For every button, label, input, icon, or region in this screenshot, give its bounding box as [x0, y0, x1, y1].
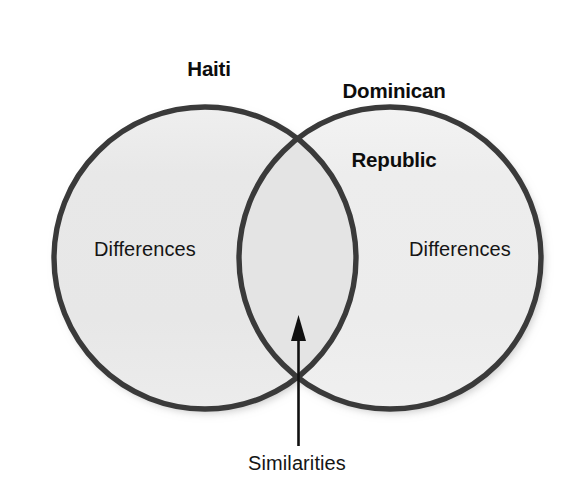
- region-label-dominican-republic-differences: Differences: [360, 238, 560, 260]
- set-title-dominican-republic: Dominican Republic: [294, 34, 494, 218]
- region-label-similarities: Similarities: [197, 452, 397, 474]
- venn-diagram: Haiti Dominican Republic Differences Dif…: [0, 0, 580, 498]
- region-label-haiti-differences: Differences: [45, 238, 245, 260]
- set-title-haiti: Haiti: [109, 58, 309, 81]
- set-title-dominican-republic-line-1: Dominican: [294, 80, 494, 103]
- set-title-dominican-republic-line-2: Republic: [294, 149, 494, 172]
